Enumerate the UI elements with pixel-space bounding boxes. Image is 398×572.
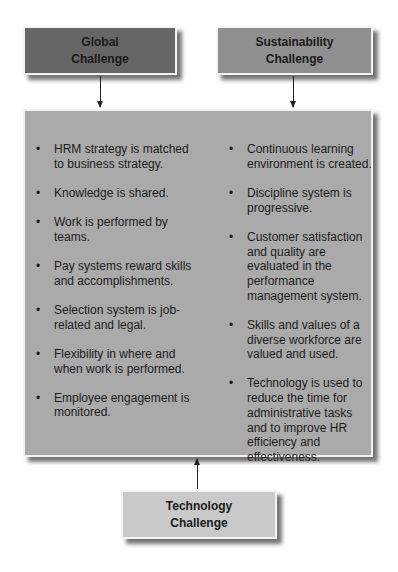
practice-item: Skills and values of a diverse workforce… xyxy=(228,318,373,362)
technology-challenge-box: Technology Challenge xyxy=(121,490,277,539)
practice-item: Employee engagement is monitored. xyxy=(35,391,195,420)
technology-challenge-line1: Technology xyxy=(166,498,232,515)
practice-item: Flexibility in where and when work is pe… xyxy=(35,347,195,376)
sustainability-challenge-box: Sustainability Challenge xyxy=(216,26,373,75)
practice-item: HRM strategy is matched to business stra… xyxy=(35,142,195,171)
sustainability-challenge-line2: Challenge xyxy=(255,51,333,68)
global-challenge-line2: Challenge xyxy=(71,51,128,68)
practice-item: Technology is used to reduce the time fo… xyxy=(228,376,373,464)
practice-item: Knowledge is shared. xyxy=(35,186,195,201)
arrow-down-icon xyxy=(100,76,101,107)
global-challenge-line1: Global xyxy=(71,34,128,51)
right-practices-column: Continuous learning environment is creat… xyxy=(228,142,373,479)
global-challenge-box: Global Challenge xyxy=(23,26,177,75)
technology-challenge-line2: Challenge xyxy=(166,515,232,532)
practice-item: Pay systems reward skills and accomplish… xyxy=(35,259,195,288)
arrow-up-icon xyxy=(197,459,198,489)
hrm-practices-box: HRM strategy is matched to business stra… xyxy=(23,109,373,457)
sustainability-challenge-line1: Sustainability xyxy=(255,34,333,51)
practice-item: Selection system is job-related and lega… xyxy=(35,303,195,332)
arrow-down-icon xyxy=(293,76,294,107)
practice-item: Work is performed by teams. xyxy=(35,215,195,244)
practice-item: Customer satisfaction and quality are ev… xyxy=(228,230,373,304)
practice-item: Continuous learning environment is creat… xyxy=(228,142,373,171)
practice-item: Discipline system is progressive. xyxy=(228,186,373,215)
left-practices-column: HRM strategy is matched to business stra… xyxy=(35,142,195,435)
